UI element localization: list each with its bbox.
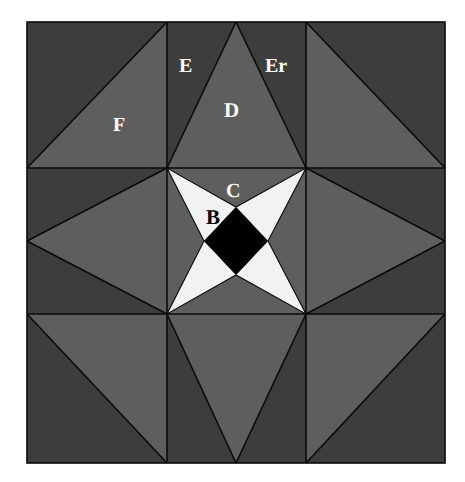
cell-middle-right [306,168,445,314]
figure-svg [0,0,465,482]
geometric-figure: A B C D E Er F [0,0,465,482]
cell-center [167,168,306,314]
cell-bottom-middle [167,314,306,463]
cell-top-middle [167,22,306,168]
cell-middle-left [27,168,167,314]
